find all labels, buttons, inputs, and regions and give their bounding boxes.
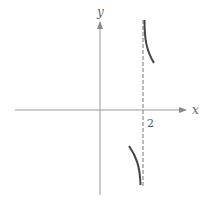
curve-left-branch (129, 146, 141, 185)
x-tick-label-2: 2 (147, 117, 154, 130)
function-graph: x y 2 (0, 0, 208, 209)
curve-right-branch (145, 20, 155, 63)
y-axis-label: y (96, 5, 104, 19)
x-axis-label: x (192, 103, 199, 117)
